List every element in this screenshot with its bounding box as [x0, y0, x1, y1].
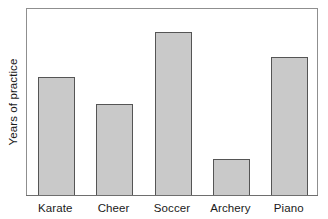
x-axis-line: [26, 195, 318, 196]
bar-piano: [271, 57, 308, 195]
bar-soccer: [155, 32, 192, 195]
x-label-archery: Archery: [201, 200, 259, 216]
bar-karate: [38, 77, 75, 195]
x-label-soccer: Soccer: [143, 200, 201, 216]
y-axis-title: Years of practice: [5, 8, 21, 196]
bar-cheer: [96, 104, 133, 195]
x-label-piano: Piano: [260, 200, 318, 216]
x-label-karate: Karate: [26, 200, 84, 216]
plot-area: [26, 8, 318, 196]
x-label-cheer: Cheer: [84, 200, 142, 216]
x-axis-tick-labels: KarateCheerSoccerArcheryPiano: [26, 200, 318, 217]
bar-chart: Years of practice KarateCheerSoccerArche…: [0, 0, 328, 219]
bar-archery: [213, 159, 250, 195]
bars-layer: [27, 9, 317, 195]
